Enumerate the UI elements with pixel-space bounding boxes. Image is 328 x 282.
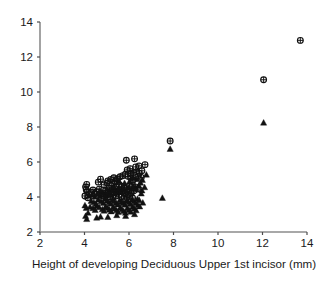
axis-lines [40,22,307,232]
axes-group [40,22,307,232]
y-tick-label: 8 [27,121,33,133]
x-tick-label: 10 [212,237,225,249]
x-tick-label: 12 [256,237,269,249]
x-tick-label: 8 [170,237,176,249]
x-tick-label: 2 [37,237,43,249]
y-tick-label: 14 [20,16,33,28]
x-axis-ticks: 2468101214 [37,232,314,249]
data-point-triangle [105,214,111,220]
x-axis-title: Height of developing Deciduous Upper 1st… [32,257,316,270]
y-tick-label: 2 [27,226,33,238]
y-tick-label: 6 [27,156,33,168]
y-tick-label: 10 [20,86,33,98]
data-point-triangle [167,146,173,152]
x-tick-label: 6 [126,237,132,249]
x-tick-label: 14 [301,237,314,249]
y-tick-label: 12 [20,51,33,63]
scatter-plot-figure: 2468101214 2468101214 Height of developi… [0,0,328,282]
data-points-layer [82,37,303,221]
data-point-triangle [159,195,165,201]
x-tick-label: 4 [81,237,88,249]
y-tick-label: 4 [27,191,34,203]
data-point-triangle [261,120,267,126]
chart-canvas: 2468101214 2468101214 Height of developi… [0,0,328,282]
y-axis-ticks: 2468101214 [20,16,40,238]
